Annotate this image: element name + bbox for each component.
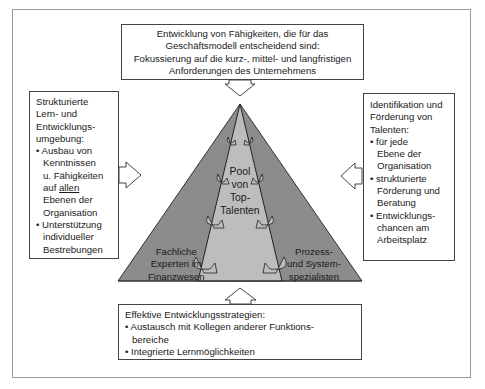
bullet-item: • Integrierte Lernmöglichkeiten	[125, 346, 357, 358]
bullet-text: chancen am	[370, 222, 452, 234]
underlined-text: allen	[59, 182, 79, 193]
bullet-icon: •	[125, 321, 128, 332]
heading-line: Förderung von	[370, 111, 452, 123]
label-line: Fachliche	[148, 246, 205, 258]
bullet-text: strukturierte	[376, 173, 427, 184]
right-box: Identifikation und Förderung von Talente…	[363, 93, 455, 261]
heading-line: Effektive Entwicklungsstrategien:	[125, 309, 357, 321]
bullet-text: Organisation	[370, 160, 452, 172]
label-line: Finanzwesen	[148, 271, 205, 283]
label-line: Prozess-	[287, 246, 341, 258]
heading-line: Strukturierte	[36, 96, 114, 108]
bullet-text: Integrierte Lernmöglichkeiten	[131, 346, 255, 357]
label-line: und System-	[287, 258, 341, 270]
bullet-text: u. Fähigkeiten	[36, 170, 114, 182]
bullet-icon: •	[36, 145, 39, 156]
bottom-box: Effektive Entwicklungsstrategien: • Aust…	[118, 304, 362, 360]
bullet-text: Arbeitsplatz	[370, 234, 452, 246]
bullet-text: Austausch mit Kollegen anderer Funktions…	[131, 321, 314, 332]
bullet-icon: •	[36, 219, 39, 230]
bullet-text: Ausbau von	[42, 145, 93, 156]
bullet-icon: •	[370, 173, 373, 184]
heading-line: Talenten:	[370, 124, 452, 136]
bullet-item: • Entwicklungs-	[370, 210, 452, 222]
pyramid-right-label: Prozess- und System- spezialisten	[287, 246, 341, 283]
bullet-text: Ebenen der	[36, 194, 114, 206]
bullet-text: für jede	[376, 136, 408, 147]
pyramid-center-label: Pool von Top- Talenten	[210, 165, 270, 217]
bullet-text: Entwicklungs-	[376, 210, 435, 221]
text-line: Fokussierung auf die kurz-, mittel- und …	[122, 53, 363, 65]
bullet-icon: •	[125, 346, 128, 357]
text-line: Entwicklung von Fähigkeiten, die für das	[122, 28, 363, 40]
bullet-text: Beratung	[370, 197, 452, 209]
bullet-item: • Austausch mit Kollegen anderer Funktio…	[125, 321, 357, 333]
bullet-icon: •	[370, 136, 373, 147]
label-line: spezialisten	[287, 271, 341, 283]
bullet-icon: •	[370, 210, 373, 221]
label-line: von	[210, 178, 270, 191]
text-line: Anforderungen des Unternehmens	[122, 65, 363, 77]
arrow-down-icon	[225, 80, 255, 96]
arrow-up-icon	[225, 288, 256, 304]
pyramid-left-label: Fachliche Experten im Finanzwesen	[148, 246, 205, 283]
heading-line: umgebung:	[36, 133, 114, 145]
left-box: Strukturierte Lern- und Entwicklungs- um…	[29, 91, 119, 259]
label-line: Pool	[210, 165, 270, 178]
bullet-text: individueller	[36, 231, 114, 243]
arrow-left-icon	[341, 163, 362, 189]
text-span: auf	[43, 182, 59, 193]
bullet-text: auf allen	[36, 182, 114, 194]
bullet-text: Organisation	[36, 207, 114, 219]
bullet-text: bereiche	[125, 334, 357, 346]
label-line: Top-	[210, 191, 270, 204]
bullet-item: • Unterstützung	[36, 219, 114, 231]
bullet-text: Bestrebungen	[36, 244, 114, 256]
bullet-item: • für jede	[370, 136, 452, 148]
text-line: Geschäftsmodell entscheidend sind:	[122, 40, 363, 52]
bullet-item: • strukturierte	[370, 173, 452, 185]
heading-line: Identifikation und	[370, 99, 452, 111]
bullet-text: Förderung und	[370, 185, 452, 197]
top-box: Entwicklung von Fähigkeiten, die für das…	[121, 24, 364, 80]
label-line: Experten im	[148, 258, 205, 270]
label-line: Talenten	[210, 204, 270, 217]
heading-line: Entwicklungs-	[36, 121, 114, 133]
bullet-text: Ebene der	[370, 148, 452, 160]
bullet-text: Unterstützung	[42, 219, 102, 230]
bullet-text: Kenntnissen	[36, 157, 114, 169]
heading-line: Lern- und	[36, 108, 114, 120]
arrow-right-icon	[119, 162, 141, 188]
bullet-item: • Ausbau von	[36, 145, 114, 157]
